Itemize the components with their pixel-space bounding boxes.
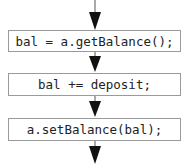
- step-get-balance: bal = a.getBalance();: [8, 30, 181, 52]
- step-set-balance: a.setBalance(bal);: [8, 118, 181, 141]
- arrow-exit: [89, 141, 101, 164]
- arrow-2-to-3: [89, 96, 101, 117]
- arrow-entry: [89, 0, 101, 30]
- arrow-1-to-2: [89, 51, 101, 72]
- step-label: bal = a.getBalance();: [15, 34, 173, 49]
- step-add-deposit: bal += deposit;: [8, 73, 181, 96]
- step-label: a.setBalance(bal);: [27, 122, 162, 137]
- step-label: bal += deposit;: [38, 77, 151, 92]
